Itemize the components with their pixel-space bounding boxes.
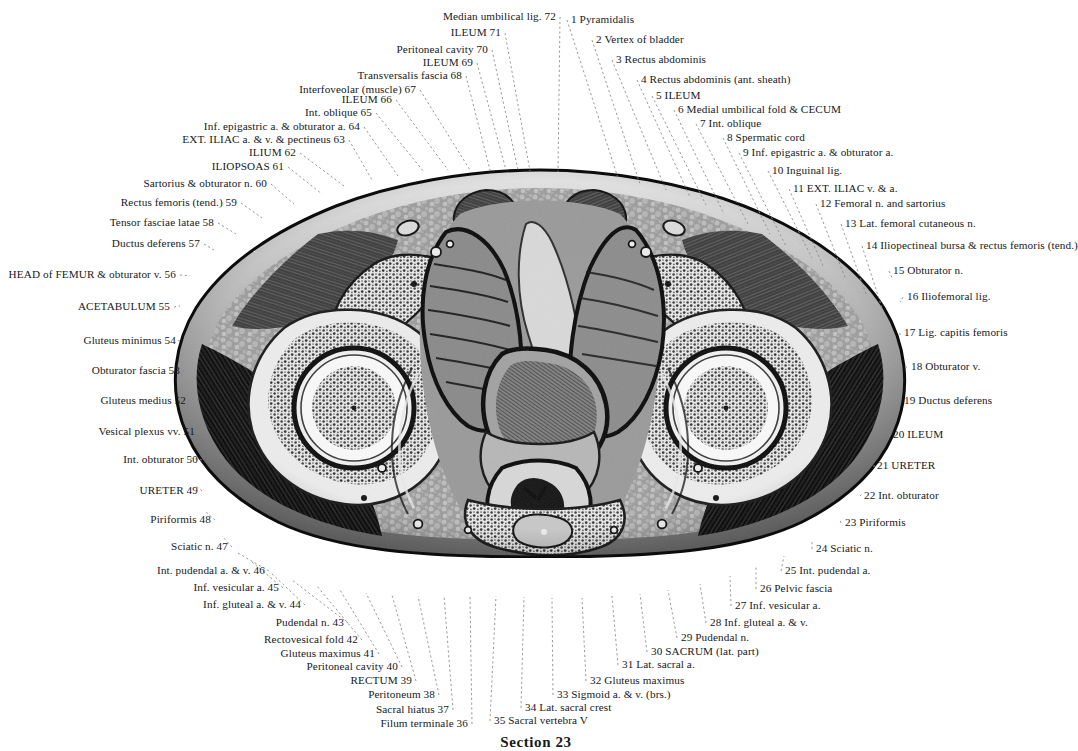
label-72: Median umbilical lig. 72 — [443, 11, 556, 23]
label-44: Inf. gluteal a. & v. 44 — [203, 599, 301, 611]
label-13: 13 Lat. femoral cutaneous n. — [845, 218, 976, 230]
leader-line-37 — [444, 596, 453, 710]
leader-line-67 — [420, 90, 470, 170]
label-7: 7 Int. oblique — [700, 118, 761, 130]
label-24: 24 Sciatic n. — [816, 543, 873, 555]
leader-line-30 — [640, 594, 647, 652]
leader-line-72 — [558, 17, 560, 172]
label-63: EXT. ILIAC a. & v. & pectineus 63 — [182, 134, 345, 146]
label-50: Int. obturator 50 — [123, 454, 198, 466]
label-22: 22 Int. obturator — [864, 490, 939, 502]
label-30: 30 SACRUM (lat. part) — [651, 646, 759, 658]
leader-line-42 — [316, 585, 362, 640]
label-27: 27 Inf. vesicular a. — [735, 600, 821, 612]
label-5: 5 ILEUM — [656, 90, 701, 102]
leader-line-36 — [470, 596, 472, 724]
label-9: 9 Inf. epigastric a. & obturator a. — [743, 147, 893, 159]
leader-line-28 — [700, 584, 706, 623]
label-33: 33 Sigmoid a. & v. (brs.) — [557, 689, 671, 701]
label-52: Gluteus medius 52 — [100, 395, 186, 407]
label-45: Inf. vesicular a. 45 — [193, 582, 279, 594]
label-12: 12 Femoral n. and sartorius — [820, 198, 945, 210]
label-47: Sciatic n. 47 — [171, 541, 228, 553]
label-41: Gluteus maximus 41 — [281, 648, 375, 660]
label-39: RECTUM 39 — [350, 675, 412, 687]
leader-line-68 — [466, 76, 490, 170]
leader-line-27 — [730, 576, 731, 606]
label-49: URETER 49 — [140, 485, 198, 497]
label-8: 8 Spermatic cord — [727, 132, 805, 144]
label-36: Filum terminale 36 — [380, 718, 468, 730]
label-65: Int. oblique 65 — [305, 107, 372, 119]
label-54: Gluteus minimus 54 — [83, 335, 176, 347]
label-37: Sacral hiatus 37 — [376, 704, 449, 716]
label-32: 32 Gluteus maximus — [590, 675, 684, 687]
label-31: 31 Lat. sacral a. — [622, 659, 695, 671]
label-55: ACETABULUM 55 — [78, 301, 170, 313]
label-59: Rectus femoris (tend.) 59 — [121, 197, 237, 209]
leader-line-66 — [396, 100, 448, 170]
label-29: 29 Pudendal n. — [681, 632, 749, 644]
label-23: 23 Piriformis — [845, 517, 906, 529]
label-40: Peritoneal cavity 40 — [307, 661, 398, 673]
label-62: ILIUM 62 — [249, 147, 296, 159]
label-64: Inf. epigastric a. & obturator a. 64 — [204, 121, 360, 133]
leader-line-35 — [490, 596, 496, 721]
label-6: 6 Medial umbilical fold & CECUM — [678, 104, 841, 116]
label-2: 2 Vertex of bladder — [596, 34, 684, 46]
label-61: ILIOPSOAS 61 — [212, 161, 284, 173]
leader-line-65 — [376, 113, 424, 172]
label-60: Sartorius & obturator n. 60 — [143, 178, 267, 190]
leader-line-25 — [781, 556, 784, 571]
label-51: Vesical plexus vv. 51 — [99, 426, 195, 438]
label-4: 4 Rectus abdominis (ant. sheath) — [641, 74, 791, 86]
leader-line-38 — [418, 596, 439, 695]
label-35: 35 Sacral vertebra V — [494, 715, 588, 727]
leader-line-33 — [552, 598, 553, 695]
label-48: Piriformis 48 — [150, 514, 211, 526]
label-69: ILEUM 69 — [423, 57, 473, 69]
label-17: 17 Lig. capitis femoris — [904, 327, 1008, 339]
label-53: Obturator fascia 53 — [92, 365, 180, 377]
label-34: 34 Lat. sacral crest — [525, 702, 612, 714]
label-11: 11 EXT. ILIAC v. & a. — [793, 183, 898, 195]
leader-line-29 — [668, 590, 677, 638]
label-10: 10 Inguinal lig. — [772, 165, 842, 177]
label-56: HEAD of FEMUR & obturator v. 56 — [9, 269, 176, 281]
label-43: Pudendal n. 43 — [276, 617, 344, 629]
label-71: ILEUM 71 — [451, 27, 501, 39]
label-58: Tensor fasciae latae 58 — [110, 217, 214, 229]
label-68: Transversalis fascia 68 — [358, 70, 462, 82]
label-57: Ductus deferens 57 — [112, 238, 200, 250]
leader-line-69 — [477, 63, 506, 170]
label-20: 20 ILEUM — [893, 429, 943, 441]
label-1: 1 Pyramidalis — [571, 14, 634, 26]
label-46: Int. pudendal a. & v. 46 — [157, 565, 265, 577]
specimen-cross-section-image — [168, 168, 913, 558]
label-66: ILEUM 66 — [342, 94, 392, 106]
label-15: 15 Obturator n. — [893, 265, 963, 277]
leader-line-31 — [612, 596, 618, 665]
label-21: 21 URETER — [877, 460, 935, 472]
label-19: 19 Ductus deferens — [904, 395, 992, 407]
leader-line-34 — [521, 597, 524, 708]
label-38: Peritoneum 38 — [368, 689, 435, 701]
label-26: 26 Pelvic fascia — [760, 583, 832, 595]
label-28: 28 Inf. gluteal a. & v. — [710, 617, 808, 629]
label-25: 25 Int. pudendal a. — [785, 565, 870, 577]
label-14: 14 Iliopectineal bursa & rectus femoris … — [866, 240, 1078, 252]
leader-line-71 — [505, 33, 530, 171]
label-42: Rectovesical fold 42 — [264, 634, 358, 646]
leader-line-32 — [582, 598, 586, 681]
plate-caption: Section 23 — [500, 734, 571, 751]
leader-line-70 — [492, 50, 518, 170]
label-3: 3 Rectus abdominis — [616, 54, 706, 66]
label-18: 18 Obturator v. — [911, 361, 980, 373]
label-67: Interfoveolar (muscle) 67 — [299, 84, 416, 96]
label-70: Peritoneal cavity 70 — [397, 44, 488, 56]
label-16: 16 Iliofemoral lig. — [907, 291, 991, 303]
